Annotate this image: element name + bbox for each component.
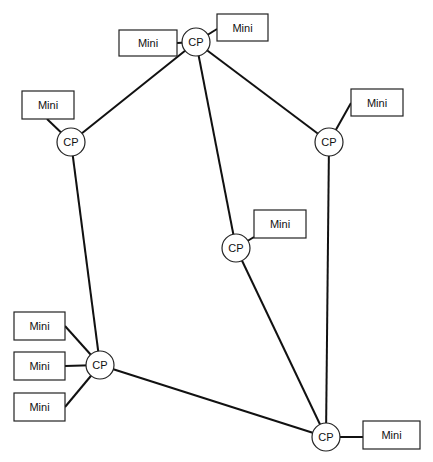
mini-label: Mini xyxy=(29,320,49,332)
mini-label: Mini xyxy=(138,37,158,49)
link-top-middle xyxy=(196,42,236,248)
cp-label: CP xyxy=(228,242,243,254)
mini-bottom-left-3: Mini xyxy=(14,393,65,421)
network-diagram: Mini Mini Mini Mini Mini Mini Mini Mini … xyxy=(0,0,433,462)
cp-middle: CP xyxy=(222,234,250,262)
mini-left: Mini xyxy=(22,91,74,119)
cp-label: CP xyxy=(318,431,333,443)
mini-label: Mini xyxy=(367,97,387,109)
link-middle-bottomright xyxy=(236,248,326,437)
cp-top: CP xyxy=(182,28,210,56)
link-top-left xyxy=(71,42,196,142)
cp-left: CP xyxy=(57,128,85,156)
mini-bottom-left-2: Mini xyxy=(14,352,65,380)
cp-label: CP xyxy=(92,359,107,371)
cp-bottom-left: CP xyxy=(86,351,114,379)
link-right-bottomright xyxy=(326,142,329,437)
mini-label: Mini xyxy=(232,22,252,34)
mini-label: Mini xyxy=(29,360,49,372)
mini-bottom-right: Mini xyxy=(363,421,420,449)
cp-label: CP xyxy=(63,136,78,148)
mini-bottom-left-1: Mini xyxy=(14,312,65,340)
cp-label: CP xyxy=(321,136,336,148)
link-top-right xyxy=(196,42,329,142)
cp-right: CP xyxy=(315,128,343,156)
mini-label: Mini xyxy=(29,401,49,413)
mini-label: Mini xyxy=(381,429,401,441)
mini-right: Mini xyxy=(351,89,403,116)
cp-label: CP xyxy=(188,36,203,48)
link-bottomleft-bottomright xyxy=(100,365,326,437)
mini-top-left: Mini xyxy=(119,30,177,56)
mini-label: Mini xyxy=(270,218,290,230)
cp-bottom-right: CP xyxy=(312,423,340,451)
cp-links xyxy=(71,42,329,437)
mini-top-right: Mini xyxy=(217,14,268,41)
mini-middle: Mini xyxy=(254,210,306,238)
link-left-bottomleft xyxy=(71,142,100,365)
mini-label: Mini xyxy=(38,99,58,111)
